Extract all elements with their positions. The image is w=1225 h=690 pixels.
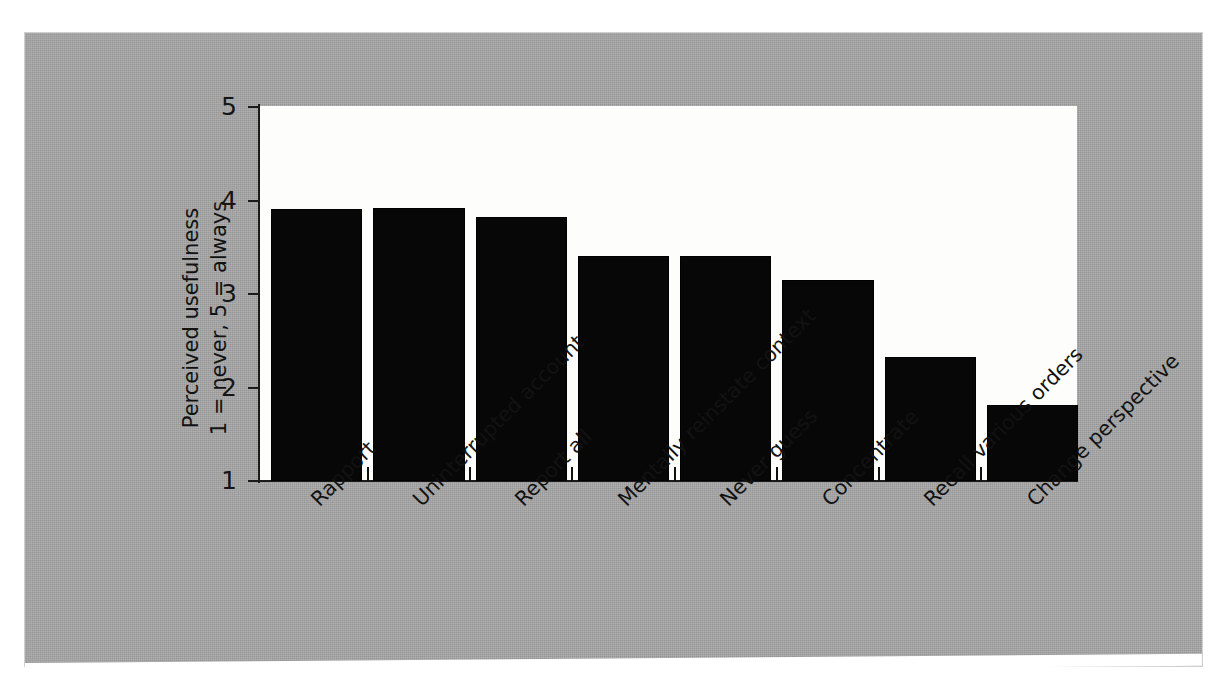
x-tick-mark: [980, 467, 982, 481]
scanned-page: Perceived usefulness 1 = never, 5 = alwa…: [0, 0, 1225, 690]
page-caption-clip: [0, 676, 1225, 690]
x-tick-mark: [367, 467, 369, 481]
y-axis-title-line-1: Perceived usefulness: [177, 173, 205, 463]
y-tick-mark-1: [248, 480, 259, 482]
y-tick-label-3: 3: [221, 279, 237, 308]
x-tick-mark: [674, 467, 676, 481]
y-tick-mark-3: [248, 293, 259, 295]
y-axis-title: Perceived usefulness 1 = never, 5 = alwa…: [177, 173, 237, 463]
y-tick-label-1: 1: [221, 466, 237, 495]
bar: [374, 209, 463, 480]
y-tick-mark-4: [248, 200, 259, 202]
x-tick-mark: [878, 467, 880, 481]
x-tick-mark: [469, 467, 471, 481]
y-tick-label-4: 4: [221, 186, 237, 215]
y-tick-mark-5: [248, 106, 259, 108]
y-axis-title-line-2: 1 = never, 5 = always: [205, 173, 233, 463]
x-tick-mark: [571, 467, 573, 481]
x-tick-mark: [776, 467, 778, 481]
y-tick-mark-2: [248, 387, 259, 389]
page-caption-text: [96, 676, 102, 689]
bar: [579, 257, 668, 480]
y-tick-label-5: 5: [221, 92, 237, 121]
figure-panel: Perceived usefulness 1 = never, 5 = alwa…: [25, 33, 1202, 666]
y-tick-label-2: 2: [221, 373, 237, 402]
bar: [272, 210, 361, 480]
